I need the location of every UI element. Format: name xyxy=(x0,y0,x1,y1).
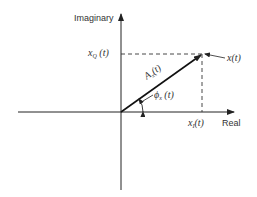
quadrature-component-label: xQ (t) xyxy=(88,48,109,61)
argument: (t) xyxy=(164,89,173,100)
phasor-diagram-canvas xyxy=(0,0,257,197)
subscript: Q xyxy=(92,53,96,59)
imaginary-axis-label: Imaginary xyxy=(74,13,114,23)
phase-label: ϕx (t) xyxy=(154,90,174,103)
signal-label: x(t) xyxy=(227,53,241,63)
argument: (t) xyxy=(194,117,203,128)
argument: (t) xyxy=(99,47,108,58)
real-axis-label: Real xyxy=(222,118,241,128)
phase-angle-arc xyxy=(139,99,143,112)
argument: (t) xyxy=(231,52,240,63)
inphase-component-label: xI(t) xyxy=(188,118,204,131)
subscript: x xyxy=(159,95,162,101)
amplitude-vector xyxy=(121,55,201,112)
signal-leader-arrow xyxy=(205,54,225,58)
